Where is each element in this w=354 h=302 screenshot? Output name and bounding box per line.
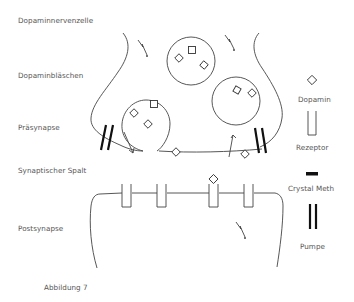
receptor-2 xyxy=(157,184,166,207)
receptor-4 xyxy=(244,184,253,207)
lightning-icon-3 xyxy=(236,222,246,239)
lightning-icon-2 xyxy=(225,35,235,51)
vesicle-top xyxy=(167,37,215,85)
vesicle-right xyxy=(212,77,260,125)
receptor-1 xyxy=(122,184,131,207)
diamond-icon xyxy=(307,75,316,84)
legend-label-crystal-meth: Crystal Meth xyxy=(288,184,334,193)
lightning-icon-1 xyxy=(138,40,148,57)
legend-label-receptor: Rezeptor xyxy=(296,143,328,152)
arrow-right xyxy=(229,135,236,157)
receptor-icon xyxy=(308,111,316,135)
postsynaptic-membrane xyxy=(90,193,283,268)
dopamine-free-1 xyxy=(172,148,180,156)
bar-icon xyxy=(306,172,318,176)
legend-label-dopamine: Dopamin xyxy=(298,95,331,104)
legend-label-pump: Pumpe xyxy=(300,242,325,251)
pump-left xyxy=(101,125,113,150)
receptor-3 xyxy=(209,174,218,207)
